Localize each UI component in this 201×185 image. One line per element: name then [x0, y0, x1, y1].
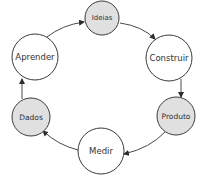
- node-dados: Dados: [12, 98, 50, 136]
- node-medir: Medir: [78, 128, 124, 174]
- node-ideias: Ideias: [85, 1, 119, 35]
- edge-ideias-to-construir-arrow: [120, 23, 155, 39]
- node-dados-label: Dados: [19, 113, 43, 122]
- node-medir-label: Medir: [89, 146, 113, 156]
- node-construir-label: Construir: [149, 53, 189, 63]
- node-aprender-label: Aprender: [15, 52, 55, 62]
- edge-aprender-to-ideias-arrow: [47, 22, 84, 37]
- node-ideias-label: Ideias: [92, 14, 113, 22]
- node-produto: Produto: [157, 97, 195, 135]
- edge-produto-to-medir-arrow: [124, 132, 165, 154]
- node-construir: Construir: [146, 35, 192, 81]
- edge-medir-to-dados-arrow: [43, 131, 78, 150]
- node-produto-label: Produto: [162, 112, 191, 121]
- node-aprender: Aprender: [12, 34, 58, 80]
- nodes-group: IdeiasConstruirProdutoMedirDadosAprender: [12, 1, 195, 174]
- cycle-diagram: IdeiasConstruirProdutoMedirDadosAprender: [0, 0, 201, 185]
